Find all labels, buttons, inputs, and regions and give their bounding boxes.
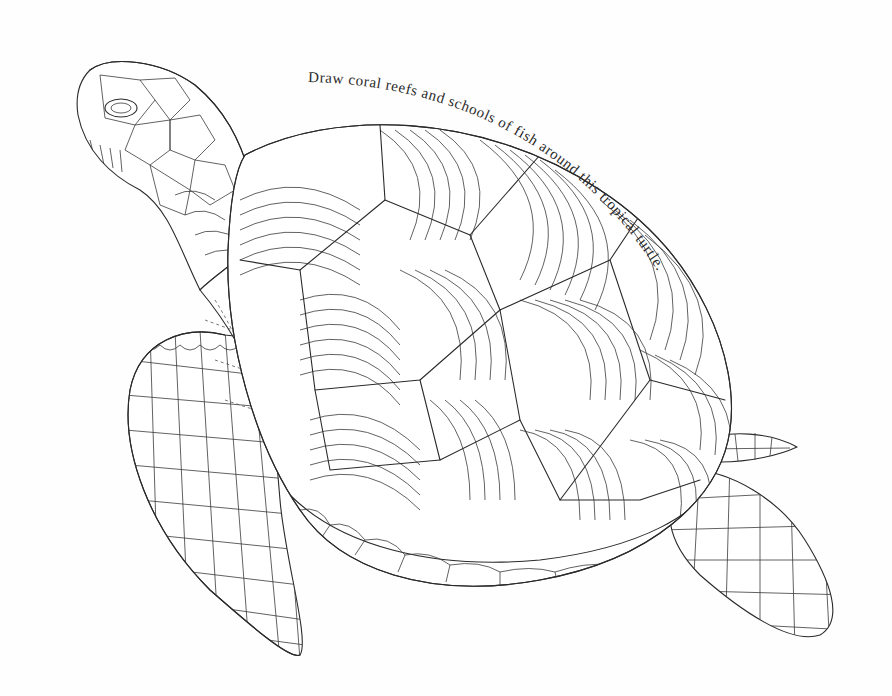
coloring-page: Draw coral reefs and schools of fish aro… [0, 0, 892, 696]
turtle-illustration: Draw coral reefs and schools of fish aro… [0, 0, 892, 696]
shell [228, 125, 732, 588]
